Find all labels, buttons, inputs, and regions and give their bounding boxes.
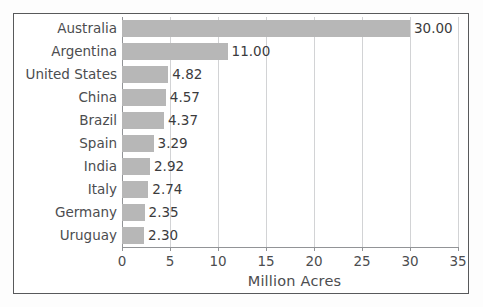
x-tick-label-20: 20 <box>305 252 322 270</box>
bar-row: Uruguay2.30 <box>122 224 458 247</box>
x-tick-label-30: 30 <box>401 252 418 270</box>
category-label-australia: Australia <box>57 18 117 38</box>
x-axis-title: Million Acres <box>0 273 483 289</box>
category-label-uruguay: Uruguay <box>60 225 117 245</box>
x-tick-label-10: 10 <box>209 252 226 270</box>
bar-uruguay <box>122 227 144 244</box>
category-label-india: India <box>84 156 117 176</box>
tick-mark-5 <box>170 247 171 251</box>
bar-value-spain: 3.29 <box>158 133 188 153</box>
bar-value-australia: 30.00 <box>414 18 453 38</box>
tick-mark-0 <box>122 247 123 251</box>
category-label-spain: Spain <box>79 133 117 153</box>
bar-row: China4.57 <box>122 86 458 109</box>
tick-mark-10 <box>218 247 219 251</box>
bar-value-china: 4.57 <box>170 87 200 107</box>
tick-mark-15 <box>266 247 267 251</box>
bar-australia <box>122 20 410 37</box>
bar-value-germany: 2.35 <box>149 202 179 222</box>
category-label-germany: Germany <box>55 202 117 222</box>
tick-mark-35 <box>458 247 459 251</box>
x-tick-label-0: 0 <box>118 252 127 270</box>
bar-row: Spain3.29 <box>122 132 458 155</box>
bar-value-uruguay: 2.30 <box>148 225 178 245</box>
x-tick-label-5: 5 <box>166 252 175 270</box>
bar-chart-figure: Australia30.00Argentina11.00United State… <box>0 0 483 307</box>
bar-china <box>122 89 166 106</box>
bar-argentina <box>122 43 228 60</box>
bar-value-united-states: 4.82 <box>172 64 202 84</box>
x-axis-title-label: Million Acres <box>248 273 342 289</box>
bar-row: Italy2.74 <box>122 178 458 201</box>
category-label-united-states: United States <box>26 64 117 84</box>
bar-value-italy: 2.74 <box>152 179 182 199</box>
x-tick-label-35: 35 <box>449 252 466 270</box>
bar-united-states <box>122 66 168 83</box>
bar-germany <box>122 204 145 221</box>
tick-mark-30 <box>410 247 411 251</box>
bar-value-argentina: 11.00 <box>232 41 271 61</box>
bar-value-india: 2.92 <box>154 156 184 176</box>
x-axis-line <box>122 247 459 248</box>
bar-row: Brazil4.37 <box>122 109 458 132</box>
tick-mark-20 <box>314 247 315 251</box>
bar-italy <box>122 181 148 198</box>
plot-area: Australia30.00Argentina11.00United State… <box>122 17 458 247</box>
category-label-china: China <box>78 87 117 107</box>
bar-spain <box>122 135 154 152</box>
x-tick-label-15: 15 <box>257 252 274 270</box>
category-label-argentina: Argentina <box>51 41 117 61</box>
bar-value-brazil: 4.37 <box>168 110 198 130</box>
bar-india <box>122 158 150 175</box>
bar-row: Argentina11.00 <box>122 40 458 63</box>
category-label-italy: Italy <box>88 179 117 199</box>
bar-row: Australia30.00 <box>122 17 458 40</box>
bar-brazil <box>122 112 164 129</box>
category-label-brazil: Brazil <box>79 110 117 130</box>
bar-row: India2.92 <box>122 155 458 178</box>
gridline-35 <box>458 17 459 247</box>
x-tick-label-25: 25 <box>353 252 370 270</box>
bar-row: United States4.82 <box>122 63 458 86</box>
bar-row: Germany2.35 <box>122 201 458 224</box>
tick-mark-25 <box>362 247 363 251</box>
